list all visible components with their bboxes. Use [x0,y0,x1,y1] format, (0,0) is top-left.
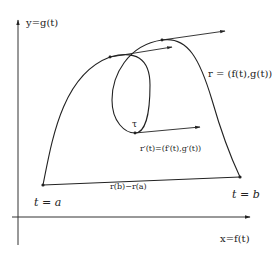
tangent-arrow-1 [110,47,172,57]
chord-label: r(b)−r(a) [110,182,147,191]
tangent-arrow-3 [135,127,200,133]
end-point [238,175,241,178]
loop-point-label: τ [132,119,137,129]
y-axis-label: y=g(t) [25,17,58,28]
start-label: t = a [34,196,61,209]
curve-label: r = (f(t),g(t)) [208,68,272,79]
tangent-arrow-2 [162,31,225,40]
start-point [41,183,44,186]
x-axis-label: x=f(t) [220,233,250,244]
parametric-curve-diagram: y=g(t) x=f(t) r = (f(t),g(t)) t = a t = … [0,0,278,262]
parametric-curve [43,40,240,185]
derivative-label: r′(t)=(f′(t),g′(t)) [140,144,201,153]
end-label: t = b [232,188,260,201]
